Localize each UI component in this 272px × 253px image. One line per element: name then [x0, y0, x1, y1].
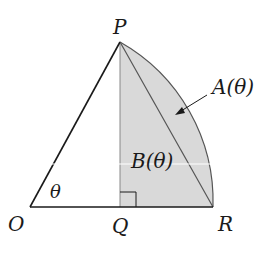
label-O: O — [8, 212, 24, 236]
label-P: P — [112, 15, 127, 39]
label-B-theta: B(θ) — [130, 149, 173, 173]
label-A-theta: A(θ) — [210, 75, 254, 99]
label-theta: θ — [50, 181, 61, 202]
sector-diagram: P A(θ) B(θ) θ O Q R — [0, 0, 272, 253]
segment-OP — [30, 42, 120, 207]
label-Q: Q — [112, 214, 128, 238]
label-R: R — [217, 212, 233, 236]
